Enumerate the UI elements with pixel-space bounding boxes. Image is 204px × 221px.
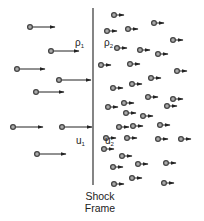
- downstream-particle: [112, 13, 124, 18]
- particle-dot-icon: [105, 29, 110, 34]
- downstream-particle: [152, 21, 164, 26]
- caption-line-2: Frame: [80, 202, 120, 214]
- particle-dot-icon: [179, 137, 184, 142]
- downstream-particle: [120, 154, 132, 159]
- particle-dot-icon: [136, 162, 141, 167]
- upstream-particle: [28, 25, 55, 30]
- downstream-particle: [128, 62, 140, 67]
- particle-dot-icon: [156, 52, 161, 57]
- particle-dot-icon: [152, 21, 157, 26]
- downstream-particle: [130, 176, 142, 181]
- particle-dot-icon: [158, 123, 163, 128]
- particle-dot-icon: [130, 82, 135, 87]
- particle-dot-icon: [57, 78, 62, 83]
- downstream-particle: [164, 161, 176, 166]
- downstream-particle: [165, 104, 177, 109]
- particle-dot-icon: [124, 111, 129, 116]
- particle-dot-icon: [60, 125, 65, 130]
- particle-dot-icon: [111, 86, 116, 91]
- particle-dot-icon: [171, 38, 176, 43]
- downstream-particle: [124, 111, 136, 116]
- velocity-upstream-label: u1: [76, 136, 85, 149]
- particle-dot-icon: [35, 152, 40, 157]
- particle-dot-icon: [117, 125, 122, 130]
- downstream-particle: [149, 76, 161, 81]
- shock-frame-caption: Shock Frame: [80, 190, 120, 214]
- downstream-particle: [162, 181, 174, 186]
- particle-dot-icon: [34, 90, 39, 95]
- particle-dot-icon: [112, 13, 117, 18]
- downstream-particle: [115, 46, 127, 51]
- particle-dot-icon: [125, 136, 130, 141]
- downstream-particle: [179, 137, 191, 142]
- upstream-particle: [34, 90, 64, 95]
- downstream-particle: [111, 165, 123, 170]
- downstream-particle: [117, 125, 129, 130]
- particle-dot-icon: [171, 97, 176, 102]
- downstream-particle: [146, 95, 158, 100]
- downstream-particle: [122, 101, 134, 106]
- velocity-downstream-label: u2: [105, 136, 114, 149]
- downstream-particle: [175, 69, 187, 74]
- downstream-particle: [111, 86, 123, 91]
- particle-dot-icon: [111, 165, 116, 170]
- particle-dot-icon: [149, 76, 154, 81]
- downstream-particle: [171, 38, 183, 43]
- particle-dot-icon: [146, 95, 151, 100]
- particle-dot-icon: [128, 62, 133, 67]
- downstream-particle: [136, 162, 148, 167]
- particle-dot-icon: [99, 63, 104, 68]
- downstream-particle: [99, 63, 111, 68]
- particle-dot-icon: [138, 48, 143, 53]
- downstream-particle: [105, 29, 117, 34]
- particle-dot-icon: [120, 154, 125, 159]
- upstream-particle: [60, 125, 92, 130]
- downstream-particle: [141, 114, 153, 119]
- shock-frame-diagram: [0, 0, 204, 221]
- downstream-particle: [126, 27, 138, 32]
- particle-dot-icon: [122, 101, 127, 106]
- upstream-particle: [35, 152, 66, 157]
- downstream-particle: [106, 105, 118, 110]
- downstream-particle: [156, 52, 168, 57]
- upstream-particle: [57, 78, 91, 83]
- density-upstream-label: ρ1: [75, 38, 84, 51]
- particle-dot-icon: [131, 124, 136, 129]
- particle-dot-icon: [156, 137, 161, 142]
- particle-dot-icon: [162, 181, 167, 186]
- particle-dot-icon: [164, 161, 169, 166]
- downstream-particle: [156, 137, 168, 142]
- upstream-particle: [15, 67, 45, 72]
- particle-dot-icon: [49, 49, 54, 54]
- particle-dot-icon: [15, 67, 20, 72]
- particle-dot-icon: [130, 176, 135, 181]
- particle-dot-icon: [112, 182, 117, 187]
- density-downstream-label: ρ2: [104, 38, 113, 51]
- downstream-particle: [171, 97, 183, 102]
- particle-dot-icon: [106, 105, 111, 110]
- particle-dot-icon: [126, 27, 131, 32]
- particle-dot-icon: [165, 104, 170, 109]
- particle-dot-icon: [115, 46, 120, 51]
- particle-dot-icon: [28, 25, 33, 30]
- downstream-particle: [130, 82, 142, 87]
- downstream-particle: [125, 136, 137, 141]
- upstream-particle: [11, 125, 43, 130]
- downstream-particle: [112, 182, 124, 187]
- downstream-particle: [138, 48, 150, 53]
- particle-dot-icon: [141, 114, 146, 119]
- caption-line-1: Shock: [80, 190, 120, 202]
- downstream-particle: [158, 123, 170, 128]
- particle-dot-icon: [175, 69, 180, 74]
- particle-dot-icon: [11, 125, 16, 130]
- downstream-particle: [131, 124, 143, 129]
